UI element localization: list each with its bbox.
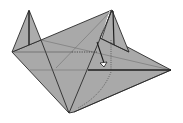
origami-diagram <box>0 0 183 123</box>
main-body <box>12 10 171 113</box>
